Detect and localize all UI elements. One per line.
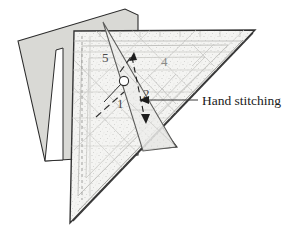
callout-label: Hand stitching — [202, 93, 281, 108]
section-label-4: 4 — [161, 54, 168, 69]
figure-container: 5 4 1 2 Hand stitching — [0, 0, 299, 239]
section-label-5: 5 — [102, 50, 109, 65]
section-label-1: 1 — [117, 96, 124, 111]
hand-stitching-illustration: 5 4 1 2 Hand stitching — [0, 0, 299, 239]
